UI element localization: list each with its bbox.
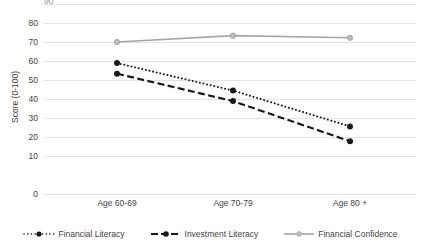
line-chart: 90 Score (0-100) 80 70 60 50 40 30 20 10… — [0, 0, 422, 248]
data-point[interactable]: Financial Literacy — Age 60-69: 62 — [114, 60, 120, 66]
legend-key-dotted-icon — [24, 229, 54, 239]
x-label-age-60-69: Age 60-69 — [97, 198, 136, 208]
series-financial-literacy: Financial Literacy — Age 60-69: 62Financ… — [114, 60, 353, 129]
series-line — [117, 63, 350, 126]
series-financial-confidence: Financial Confidence — Age 60-69: 72Fina… — [114, 33, 352, 45]
legend-item-investment-literacy[interactable]: Investment Literacy — [151, 229, 259, 239]
data-point[interactable]: Financial Confidence — Age 80 +: 74 — [347, 35, 352, 40]
legend-item-financial-literacy[interactable]: Financial Literacy — [24, 229, 124, 239]
legend-label-financial-literacy: Financial Literacy — [58, 229, 124, 239]
x-label-age-80-plus: Age 80 + — [333, 198, 367, 208]
legend-label-financial-confidence: Financial Confidence — [318, 229, 397, 239]
data-point[interactable]: Investment Literacy — Age 60-69: 57 — [114, 71, 120, 77]
x-axis-labels: Age 60-69 Age 70-79 Age 80 + — [0, 198, 422, 216]
legend-item-financial-confidence[interactable]: Financial Confidence — [284, 229, 397, 239]
data-point[interactable]: Investment Literacy — Age 70-79: 44 — [230, 98, 236, 104]
legend-key-solid-icon — [284, 229, 314, 239]
series-investment-literacy: Investment Literacy — Age 60-69: 57Inves… — [114, 71, 353, 145]
data-point[interactable]: Financial Confidence — Age 70-79: 75 — [230, 33, 235, 38]
data-point[interactable]: Financial Literacy — Age 70-79: 49 — [230, 88, 236, 94]
data-point[interactable]: Investment Literacy — Age 80 +: 25 — [347, 138, 353, 144]
data-point[interactable]: Financial Confidence — Age 60-69: 72 — [114, 39, 119, 44]
chart-legend: Financial Literacy Investment Literacy F… — [0, 224, 422, 244]
legend-label-investment-literacy: Investment Literacy — [185, 229, 259, 239]
legend-key-dashed-icon — [151, 229, 181, 239]
series-line — [117, 74, 350, 142]
data-point[interactable]: Financial Literacy — Age 80 +: 32 — [347, 123, 353, 129]
x-label-age-70-79: Age 70-79 — [213, 198, 252, 208]
plot-area: Score (0-100) 80 70 60 50 40 30 20 10 0 … — [0, 0, 422, 215]
series-layer: Financial Literacy — Age 60-69: 62Financ… — [0, 0, 422, 215]
